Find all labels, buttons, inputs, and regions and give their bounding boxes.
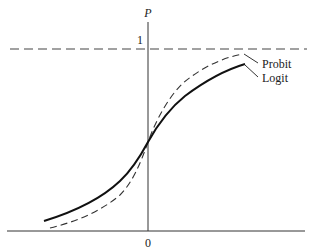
probit-curve [50,54,243,228]
probit-logit-chart: P 1 0 Probit Logit [0,0,320,250]
logit-label: Logit [262,71,289,85]
logit-curve [44,64,245,221]
y-axis-label: P [143,6,152,20]
x-tick-zero-label: 0 [145,236,151,250]
logit-leader-line [245,65,258,77]
probit-leader-line [244,54,258,63]
y-tick-one-label: 1 [137,33,143,47]
probit-label: Probit [262,57,292,71]
